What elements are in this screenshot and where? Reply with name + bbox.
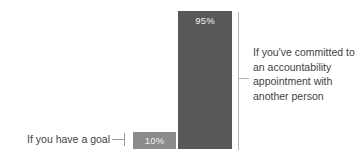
bracket-line-accountability bbox=[238, 12, 239, 150]
bar-chart: If you have a goal 10% 95% If you've com… bbox=[0, 0, 363, 160]
bar-goal[interactable]: 10% bbox=[133, 132, 176, 149]
bracket-line-accountability-tick bbox=[238, 78, 249, 79]
category-label-goal: If you have a goal bbox=[12, 132, 110, 146]
bar-value-accountability: 95% bbox=[178, 15, 232, 26]
leader-line-goal-tick bbox=[124, 133, 125, 146]
bar-accountability[interactable]: 95% bbox=[178, 11, 232, 149]
category-label-accountability: If you've committed to an accountability… bbox=[253, 45, 361, 103]
bar-value-goal: 10% bbox=[133, 135, 176, 146]
